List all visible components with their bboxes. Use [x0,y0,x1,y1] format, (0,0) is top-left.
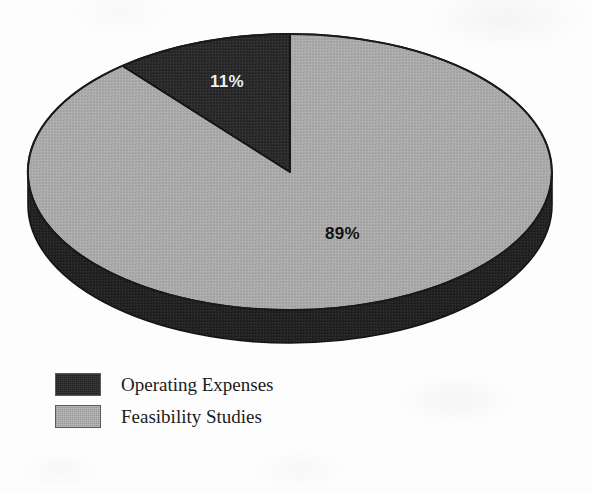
legend-item-operating-expenses[interactable]: Operating Expenses [55,368,385,400]
slice-label-operating-expenses: 11% [210,72,244,92]
chart-legend: Operating Expenses Feasibility Studies [55,368,385,432]
pie-chart: 11% 89% [0,0,592,355]
slice-label-feasibility-studies: 89% [325,224,360,244]
legend-swatch-operating-expenses [55,373,101,396]
legend-label-feasibility-studies: Feasibility Studies [121,407,262,426]
legend-item-feasibility-studies[interactable]: Feasibility Studies [55,400,385,432]
legend-label-operating-expenses: Operating Expenses [121,375,273,394]
legend-swatch-feasibility-studies [55,405,101,428]
chart-page: 11% 89% Operating Expenses Feasibility S… [0,0,592,493]
pie-chart-graphic [0,0,592,360]
